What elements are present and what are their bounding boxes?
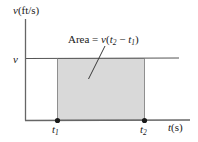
y-axis-tick-label-v: v — [13, 54, 18, 65]
area-annotation-label: Area = v(t2 − t1) — [68, 34, 139, 47]
t1-point-marker — [55, 118, 60, 123]
x-axis-label: t(s) — [168, 122, 183, 133]
t1-subscript: 1 — [55, 128, 59, 137]
velocity-line — [25, 58, 179, 59]
x-axis — [25, 120, 190, 121]
annotation-prefix: Area = — [68, 33, 101, 45]
shaded-area-region — [58, 59, 145, 121]
annotation-close-paren: ) — [135, 33, 139, 45]
velocity-time-figure: v(ft/s) v t(s) t1 t2 Area = v(t2 − t1) — [0, 0, 198, 142]
x-axis-tick-label-t1: t1 — [52, 124, 59, 137]
annotation-minus: − — [116, 33, 128, 45]
t2-subscript: 2 — [143, 128, 147, 137]
x-axis-units: (s) — [171, 121, 183, 133]
x-axis-tick-label-t2: t2 — [140, 124, 147, 137]
y-axis-label: v(ft/s) — [13, 5, 39, 16]
y-axis-units: (ft/s) — [18, 4, 39, 16]
